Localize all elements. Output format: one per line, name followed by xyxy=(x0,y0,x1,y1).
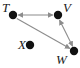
node-label-t: T xyxy=(2,1,9,14)
edge-v-w xyxy=(60,20,73,46)
node-x[interactable] xyxy=(26,41,34,49)
node-label-x: X xyxy=(18,38,26,51)
node-t[interactable] xyxy=(9,11,17,19)
node-label-w: W xyxy=(56,53,67,66)
node-w[interactable] xyxy=(70,47,78,55)
directed-graph-figure: T V X W xyxy=(0,0,80,68)
node-label-v: V xyxy=(63,1,71,14)
node-v[interactable] xyxy=(54,11,62,19)
